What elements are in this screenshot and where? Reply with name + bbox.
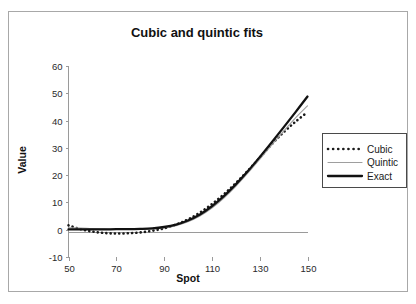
series-line-exact [69,97,308,230]
data-series-group [69,97,308,234]
legend-label-exact: Exact [367,171,392,182]
y-tick-label: 10 [52,197,63,208]
x-tick-label: 90 [159,263,170,274]
y-axis: -100102030405060 [49,61,69,263]
legend: CubicQuinticExact [323,134,407,188]
x-tick-label: 150 [301,263,317,274]
chart-svg: Cubic and quintic fits -100102030405060 … [0,0,416,304]
x-tick-label: 130 [253,263,269,274]
y-tick-label: 0 [57,225,62,236]
y-tick-label: 50 [52,88,63,99]
y-tick-label-group: -100102030405060 [49,61,63,263]
series-line-quintic [69,106,308,229]
y-tick-label: 30 [52,143,63,154]
series-line-cubic [69,112,308,233]
chart-title: Cubic and quintic fits [131,25,263,40]
legend-label-quintic: Quintic [367,157,398,168]
x-tick-label: 70 [111,263,122,274]
y-tick-label: -10 [49,252,63,263]
x-tick-label: 50 [64,263,75,274]
x-axis-title: Spot [176,272,200,284]
y-tick-label: 40 [52,116,63,127]
y-tick-label: 20 [52,170,63,181]
y-tick-label: 60 [52,61,63,72]
x-tick-group [70,257,309,261]
x-axis: 507090110130150 [64,233,316,275]
x-tick-label: 110 [205,263,220,274]
legend-label-cubic: Cubic [367,144,393,155]
y-axis-title: Value [16,146,28,174]
